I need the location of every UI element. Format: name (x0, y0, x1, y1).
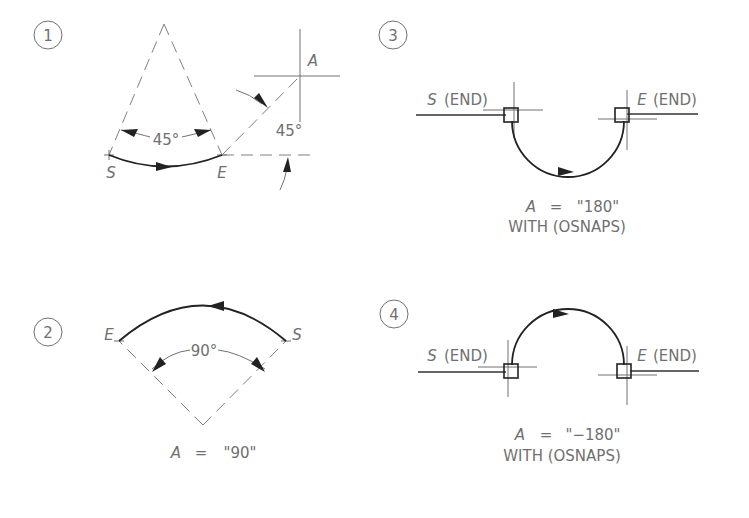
osnap-marker-start-icon (504, 364, 518, 378)
caption-variable: A (525, 198, 536, 216)
caption-equals: = (550, 198, 563, 216)
figure-1: 1 45° S E A 45° (34, 21, 340, 190)
caption-equals: = (195, 444, 208, 462)
figure-number-badge: 3 (379, 21, 407, 49)
dim-arrow-left-icon (121, 129, 138, 137)
arc-direction-arrow-icon (208, 301, 224, 311)
end-point-label: E (104, 326, 114, 344)
figure-2: 2 90° E S A = "90" (34, 301, 302, 462)
direction-angle-label: 45° (276, 122, 303, 140)
start-point-label: S (292, 326, 302, 344)
arc-s-to-e (512, 121, 624, 177)
end-point-label: E (637, 91, 647, 109)
included-angle-label: 90° (191, 342, 218, 360)
caption-osnaps: WITH (OSNAPS) (508, 218, 626, 236)
direction-line (222, 76, 300, 155)
arc-s-to-e (119, 306, 286, 342)
caption-value: "90" (224, 444, 257, 462)
figure-3: 3 S (END) E (END) A = "180" WITH (OSNAPS… (379, 21, 698, 236)
osnap-marker-end-icon (617, 364, 631, 378)
end-point-label: E (637, 347, 647, 365)
arc-diagram-canvas: 1 45° S E A 45° 2 (0, 0, 749, 518)
start-snap-label: (END) (444, 347, 488, 365)
figure-number-badge: 2 (34, 318, 62, 346)
included-angle-label: 45° (153, 131, 180, 149)
start-point-label: S (427, 91, 437, 109)
figure-number: 1 (43, 27, 53, 45)
start-snap-label: (END) (444, 91, 488, 109)
figure-number-badge: 1 (34, 21, 62, 49)
figure-number: 4 (389, 306, 399, 324)
dim-arrow-right-icon (194, 129, 211, 137)
start-point-label: S (427, 347, 437, 365)
caption-value: "180" (577, 198, 619, 216)
figure-number-badge: 4 (380, 300, 408, 328)
end-snap-label: (END) (653, 347, 697, 365)
caption-variable: A (514, 426, 525, 444)
arc-direction-arrow-icon (558, 167, 574, 176)
end-point-label: E (217, 164, 227, 182)
arc-direction-arrow-icon (553, 309, 569, 318)
end-snap-label: (END) (653, 91, 697, 109)
angle-arrow-lower-icon (283, 157, 291, 172)
caption-equals: = (540, 426, 553, 444)
figure-number: 3 (388, 27, 398, 45)
arc-direction-arrow-icon (156, 162, 172, 171)
arc-s-to-e (512, 309, 624, 365)
arc-s-to-e (109, 155, 222, 167)
direction-point-label: A (307, 52, 318, 70)
angle-arrow-upper-icon (254, 93, 268, 108)
caption-osnaps: WITH (OSNAPS) (503, 447, 621, 465)
caption-value: "−180" (566, 426, 621, 444)
start-point-label: S (106, 164, 116, 182)
figure-number: 2 (43, 324, 53, 342)
caption-variable: A (170, 444, 181, 462)
figure-4: 4 S (END) E (END) A = "−180" WITH (OSNAP… (380, 300, 699, 465)
